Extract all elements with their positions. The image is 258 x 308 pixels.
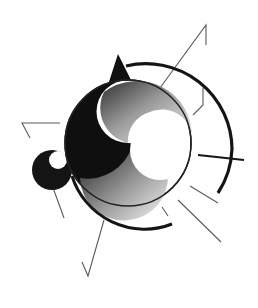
side-circle-hole (49, 151, 67, 169)
abstract-illustration (0, 0, 258, 308)
bottom-v-line (82, 220, 104, 276)
lower-tick-line (162, 207, 168, 216)
left-lower-line (52, 185, 64, 218)
right-crossbar (198, 155, 244, 160)
lower-right-line-1 (178, 200, 221, 242)
left-bracket-line (22, 123, 60, 138)
right-zigzag-line (193, 88, 203, 115)
lower-right-line-2 (190, 186, 218, 203)
upper-zigzag-line (160, 25, 206, 88)
